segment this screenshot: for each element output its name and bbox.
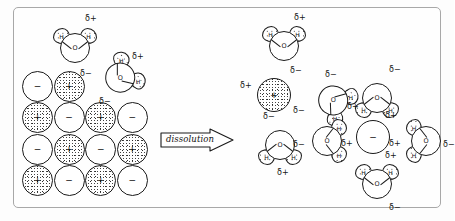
lattice-anion: −: [117, 102, 148, 133]
delta-negative-label: δ−: [290, 66, 302, 75]
lattice-cation: +: [22, 165, 53, 196]
delta-negative-label: δ−: [263, 112, 275, 121]
oxygen-label: O: [363, 84, 391, 112]
delta-positive-label: δ+: [132, 52, 144, 61]
free-anion: −: [356, 120, 390, 154]
delta-negative-label: δ−: [293, 140, 305, 149]
oxygen-atom: O: [99, 57, 141, 99]
oxygen-label: O: [270, 32, 298, 60]
delta-positive-label: δ+: [385, 151, 397, 160]
lattice-anion: −: [117, 165, 148, 196]
oxygen-label: O: [363, 170, 391, 198]
delta-positive-label: δ+: [389, 139, 401, 148]
ion-charge-label: +: [23, 166, 52, 195]
water-molecule: HHO: [52, 24, 98, 70]
lattice-anion: −: [85, 134, 116, 165]
oxygen-atom: O: [312, 126, 342, 156]
oxygen-atom: O: [362, 83, 392, 113]
ion-charge-label: −: [86, 135, 115, 164]
ion-charge-label: −: [357, 121, 389, 153]
delta-negative-label: δ−: [80, 69, 92, 78]
ion-charge-label: +: [258, 79, 290, 111]
dissolution-label: dissolution: [166, 134, 214, 144]
delta-negative-label: δ−: [293, 106, 305, 115]
delta-positive-label: δ+: [277, 168, 289, 177]
delta-positive-label: δ+: [385, 111, 397, 120]
water-molecule: HHO: [261, 22, 307, 68]
water-orientation: HHO: [402, 118, 448, 164]
ion-charge-label: −: [23, 135, 52, 164]
water-orientation: HHO: [52, 24, 98, 70]
ion-charge-label: +: [55, 135, 84, 164]
oxygen-label: O: [319, 86, 347, 114]
ion-charge-label: −: [118, 103, 147, 132]
lattice-cation: +: [85, 102, 116, 133]
lattice-anion: −: [22, 71, 53, 102]
lattice-anion: −: [54, 165, 85, 196]
lattice-cation: +: [117, 134, 148, 165]
oxygen-atom: O: [362, 169, 392, 199]
oxygen-atom: O: [265, 130, 295, 160]
delta-positive-label: δ+: [347, 102, 359, 111]
delta-negative-label: δ−: [389, 203, 401, 212]
delta-positive-label: δ+: [85, 14, 97, 23]
delta-negative-label: δ−: [389, 65, 401, 74]
oxygen-label: O: [266, 131, 294, 159]
ion-charge-label: +: [86, 166, 115, 195]
delta-positive-label: δ+: [240, 81, 252, 90]
oxygen-label: O: [313, 127, 341, 155]
oxygen-atom: O: [411, 126, 441, 156]
oxygen-atom: O: [269, 31, 299, 61]
free-cation: +: [257, 78, 291, 112]
ion-charge-label: −: [23, 72, 52, 101]
oxygen-atom: O: [60, 33, 90, 63]
lattice-cation: +: [22, 102, 53, 133]
ion-charge-label: −: [55, 103, 84, 132]
lattice-anion: −: [22, 134, 53, 165]
ion-charge-label: +: [86, 103, 115, 132]
oxygen-label: O: [412, 127, 440, 155]
water-molecule: HHO: [402, 118, 448, 164]
water-molecule: HHO: [354, 160, 400, 206]
ion-charge-label: −: [118, 166, 147, 195]
oxygen-atom: O: [312, 79, 354, 121]
delta-negative-label: δ−: [325, 70, 337, 79]
delta-positive-label: δ+: [294, 13, 306, 22]
lattice-anion: −: [54, 102, 85, 133]
water-orientation: HHO: [261, 22, 307, 68]
oxygen-label: O: [106, 64, 134, 92]
delta-positive-label: δ+: [341, 139, 353, 148]
oh-bond: [117, 63, 118, 75]
delta-negative-label: δ−: [443, 140, 455, 149]
lattice-cation: +: [85, 165, 116, 196]
oxygen-label: O: [61, 34, 89, 62]
ion-charge-label: −: [55, 166, 84, 195]
diagram-frame: −++−+−−+−++−+− HHOHHO dissolution +HHOHH…: [13, 7, 441, 208]
water-orientation: HHO: [354, 160, 400, 206]
ion-charge-label: +: [118, 135, 147, 164]
delta-negative-label: δ−: [99, 97, 111, 106]
lattice-cation: +: [54, 134, 85, 165]
ion-charge-label: +: [23, 103, 52, 132]
